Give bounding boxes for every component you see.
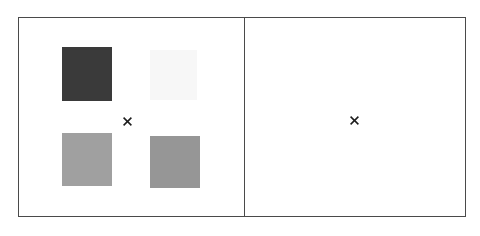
- swatch-top-right: [150, 50, 197, 100]
- swatch-bottom-right: [150, 136, 200, 188]
- center-cross-icon-right: [349, 115, 360, 126]
- right-panel: [244, 17, 466, 217]
- figure-canvas: [0, 0, 480, 236]
- swatch-bottom-left: [62, 133, 112, 186]
- center-cross-icon-left: [122, 116, 133, 127]
- left-panel: [18, 17, 245, 217]
- swatch-top-left: [62, 47, 112, 101]
